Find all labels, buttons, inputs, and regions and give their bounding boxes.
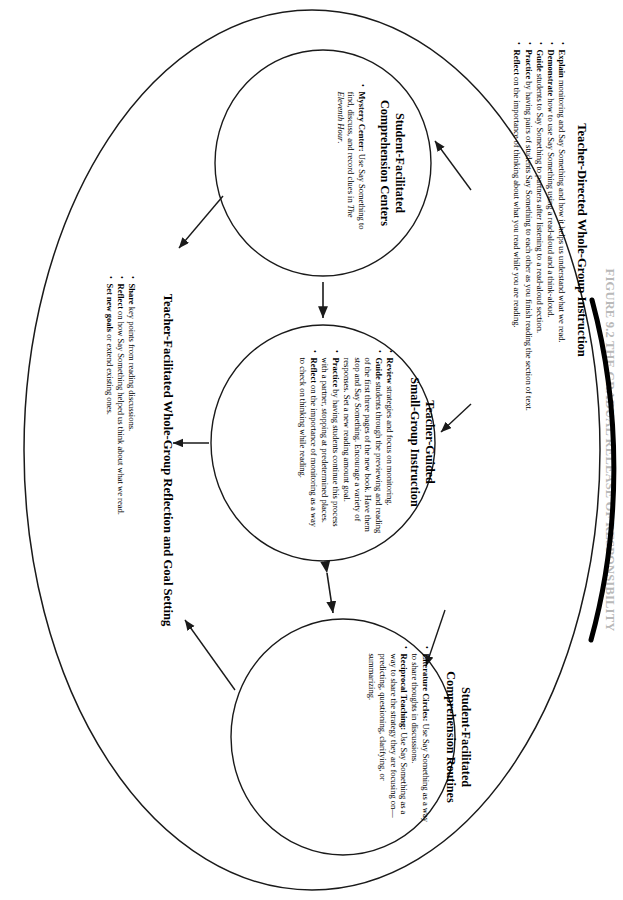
list-item: Review strategies and focus on monitorin… [384, 350, 395, 535]
oval-title-small-group-instruction: Teacher-Guided Small-Group Instruction [408, 352, 437, 532]
bullet-lead: Review [385, 358, 395, 384]
bullet-text: key points from reading discussions. [127, 305, 137, 432]
bullet-list: Literature Circles: Use Say Something as… [367, 646, 431, 826]
bottom-section-bullets: Share key points from reading discussion… [104, 276, 137, 646]
bullet-lead: Set new goals [105, 284, 115, 333]
bullet-lead: Explain [557, 50, 567, 78]
bullet-lead: Literature Circles: [421, 654, 431, 722]
bullet-text: students to Say Something to partners af… [535, 72, 545, 333]
oval-title-line1: Student-Facilitated [458, 648, 473, 826]
oval-title-line1: Student-Facilitated [392, 78, 407, 248]
list-item: Demonstrate how to use Say Something usi… [545, 42, 556, 442]
bullet-list: Explain monitoring and Say Something and… [512, 42, 567, 442]
bullet-tail: . [336, 141, 346, 143]
bullet-text: or extend existing ones. [105, 332, 115, 415]
arrow-routines-to-reflection [185, 620, 235, 690]
list-item: Practice by having students continue thi… [319, 350, 340, 535]
oval-title-line2: Comprehension Routines [444, 648, 459, 826]
bullet-list: Share key points from reading discussion… [104, 276, 137, 646]
bullet-text: by having pairs of students Say Somethin… [524, 79, 534, 411]
bullet-text: strategies and focus on monitoring. [385, 384, 395, 506]
figure-page: FIGURE 9.2 THE GRADUAL RELEASE OF RESPON… [0, 0, 623, 900]
bullet-lead: Reciprocal Teaching: [399, 654, 409, 731]
bullet-lead: Practice [331, 358, 341, 388]
list-item: Mystery Center: Use Say Something to fin… [335, 84, 367, 242]
bullet-list: Mystery Center: Use Say Something to fin… [335, 84, 367, 242]
bullet-lead: Reflect [512, 50, 522, 75]
oval-title-comprehension-routines: Student-Facilitated Comprehension Routin… [444, 648, 473, 826]
arrow-top-to-centers [435, 141, 471, 190]
bullet-text: on how Say Something helped us think abo… [116, 309, 126, 515]
bullet-lead: Reflect [309, 358, 319, 383]
list-item: Reflect on how Say Something helped us t… [115, 276, 126, 646]
bullet-text: how to use Say Something using a read-al… [546, 96, 556, 317]
bottom-section-title: Teacher-Facilitated Whole-Group Reflecti… [160, 250, 175, 670]
list-item: Guide students to Say Something to partn… [534, 42, 545, 442]
oval-title-line2: Small-Group Instruction [408, 352, 423, 532]
list-item: Reciprocal Teaching: Use Say Something a… [367, 646, 410, 826]
list-item: Practice by having pairs of students Say… [523, 42, 534, 442]
oval-bullets-small-group-instruction: Review strategies and focus on monitorin… [297, 350, 395, 535]
bullet-text: on the importance of thinking about what… [512, 75, 522, 328]
bullet-lead: Practice [524, 50, 534, 80]
oval-title-line1: Teacher-Guided [422, 352, 437, 532]
bullet-text: students through the previewing and read… [342, 358, 384, 534]
bullet-lead: Share [127, 284, 137, 305]
oval-bullets-comprehension-routines: Literature Circles: Use Say Something as… [366, 646, 431, 826]
list-item: Set new goals or extend existing ones. [104, 276, 115, 646]
bullet-list: Review strategies and focus on monitorin… [298, 350, 395, 535]
oval-title-comprehension-centers: Student-Facilitated Comprehension Center… [378, 78, 407, 248]
oval-title-line2: Comprehension Centers [378, 78, 393, 248]
list-item: Guide students through the previewing an… [341, 350, 384, 535]
bullet-text: monitoring and Say Something and how it … [557, 78, 567, 343]
bullet-lead: Demonstrate [546, 50, 556, 97]
arrow-small-group-routines [327, 573, 333, 613]
list-item: Literature Circles: Use Say Something as… [410, 646, 431, 826]
bullet-lead: Mystery Center: [357, 92, 367, 152]
arrow-centers-to-reflection [179, 196, 223, 248]
arrow-top-to-small-group [441, 404, 471, 432]
list-item: Explain monitoring and Say Something and… [556, 42, 567, 442]
list-item: Reflect on the importance of thinking ab… [512, 42, 523, 442]
oval-bullets-comprehension-centers: Mystery Center: Use Say Something to fin… [335, 84, 367, 242]
bullet-lead: Reflect [116, 284, 126, 309]
top-section-bullets: Explain monitoring and Say Something and… [511, 42, 567, 442]
diagram-canvas: FIGURE 9.2 THE GRADUAL RELEASE OF RESPON… [0, 0, 623, 900]
bullet-lead: Guide [374, 358, 384, 380]
list-item: Reflect on the importance of monitoring … [298, 350, 319, 535]
bullet-text: on the importance of monitoring as a way… [298, 358, 319, 527]
rotation-wrapper: FIGURE 9.2 THE GRADUAL RELEASE OF RESPON… [0, 0, 623, 900]
top-section-title: Teacher-Directed Whole-Group Instruction [574, 30, 589, 450]
bullet-lead: Guide [535, 50, 545, 72]
outer-ellipse-accent [591, 300, 614, 640]
list-item: Share key points from reading discussion… [126, 276, 137, 646]
